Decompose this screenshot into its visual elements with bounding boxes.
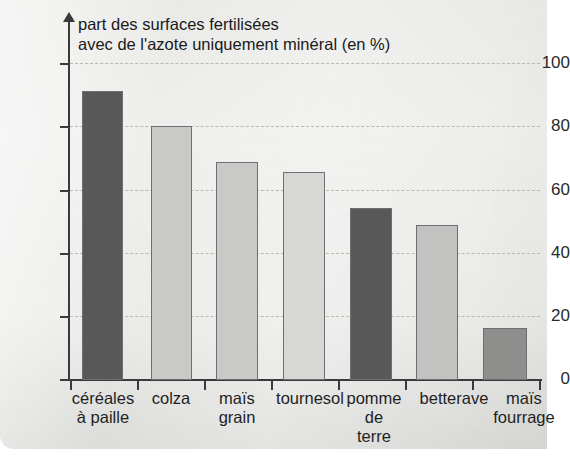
bar-cereales-a-paille[interactable] (82, 91, 123, 380)
bar-tournesol[interactable] (283, 172, 325, 380)
screenshot-root: part des surfaces fertiliséesavec de l'a… (0, 0, 570, 464)
bar-colza[interactable] (151, 126, 192, 380)
x-axis-label-cereales-a-paille: céréales à paille (62, 389, 144, 427)
bar-group (0, 0, 570, 380)
bar-mais-fourrage[interactable] (483, 328, 527, 380)
x-axis-label-mais-grain: maïs grain (201, 389, 273, 427)
bar-chart: part des surfaces fertiliséesavec de l'a… (0, 0, 570, 464)
x-axis-label-mais-fourrage: maïs fourrage (480, 389, 568, 427)
x-axis-label-colza: colza (133, 389, 209, 408)
x-axis-label-pomme-de-terre: pomme de terre (334, 389, 414, 446)
bar-betterave[interactable] (416, 225, 458, 380)
bar-pomme-de-terre[interactable] (350, 208, 392, 380)
bar-mais-grain[interactable] (216, 162, 258, 380)
